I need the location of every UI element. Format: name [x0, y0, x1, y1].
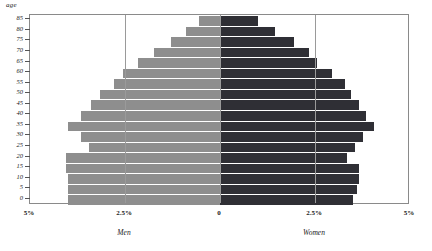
y-axis-title: age [6, 1, 17, 9]
x-tick-label: 2.5% [116, 209, 132, 217]
y-axis: 8580757065605550454035302520151050 [0, 14, 30, 204]
bar-men [171, 36, 220, 47]
population-pyramid-chart: age 8580757065605550454035302520151050 5… [0, 0, 432, 251]
bar-row [30, 173, 408, 184]
bar-women [220, 173, 359, 184]
bar-row [30, 15, 408, 26]
y-tick-label: 60 [17, 67, 24, 75]
bar-women [220, 184, 357, 195]
y-tick-mark [25, 134, 30, 135]
bar-men [100, 89, 220, 100]
bar-women [220, 121, 374, 132]
bar-row [30, 57, 408, 68]
y-tick-label: 25 [17, 141, 24, 149]
bar-row [30, 121, 408, 132]
plot-area [29, 14, 409, 204]
bar-men [138, 57, 220, 68]
y-tick-mark [25, 18, 30, 19]
y-tick-mark [25, 187, 30, 188]
y-tick-label: 20 [17, 152, 24, 160]
bar-men [186, 26, 220, 37]
bar-women [220, 15, 258, 26]
bar-men [68, 194, 220, 205]
bar-row [30, 36, 408, 47]
y-tick-mark [25, 156, 30, 157]
bar-row [30, 110, 408, 121]
bar-women [220, 110, 366, 121]
bar-men [123, 68, 220, 79]
y-tick-label: 55 [17, 78, 24, 86]
y-tick-label: 30 [17, 130, 24, 138]
bar-women [220, 36, 294, 47]
bar-men [114, 78, 220, 89]
bar-row [30, 142, 408, 153]
y-tick-mark [25, 113, 30, 114]
y-tick-mark [25, 124, 30, 125]
y-tick-label: 35 [17, 120, 24, 128]
bar-row [30, 99, 408, 110]
bar-women [220, 57, 317, 68]
bar-row [30, 152, 408, 163]
y-tick-label: 50 [17, 88, 24, 96]
y-tick-mark [25, 82, 30, 83]
y-tick-label: 85 [17, 14, 24, 22]
y-tick-mark [25, 166, 30, 167]
x-tick-label: 2.5% [306, 209, 322, 217]
y-tick-mark [25, 177, 30, 178]
bar-women [220, 78, 345, 89]
gridline [125, 15, 126, 203]
series-label-women: Women [303, 228, 325, 237]
y-tick-label: 40 [17, 109, 24, 117]
y-tick-label: 15 [17, 162, 24, 170]
gridline [220, 15, 221, 203]
bar-row [30, 163, 408, 174]
y-tick-mark [25, 71, 30, 72]
bar-women [220, 26, 275, 37]
y-tick-mark [25, 29, 30, 30]
y-tick-label: 0 [20, 194, 23, 202]
y-tick-mark [25, 39, 30, 40]
bar-men [89, 142, 220, 153]
bar-row [30, 68, 408, 79]
bar-women [220, 47, 309, 58]
y-tick-mark [25, 103, 30, 104]
x-tick-label: 5% [24, 209, 35, 217]
series-label-men: Men [117, 228, 130, 237]
y-tick-label: 75 [17, 35, 24, 43]
y-tick-mark [25, 50, 30, 51]
bar-men [66, 163, 220, 174]
bar-men [199, 15, 220, 26]
bar-row [30, 26, 408, 37]
y-tick-label: 45 [17, 99, 24, 107]
bar-women [220, 142, 355, 153]
y-tick-label: 5 [20, 183, 23, 191]
bar-women [220, 89, 351, 100]
bar-men [81, 110, 220, 121]
bar-women [220, 163, 359, 174]
x-tick-label: 5% [404, 209, 415, 217]
bar-men [68, 184, 220, 195]
bar-women [220, 194, 353, 205]
y-tick-mark [25, 145, 30, 146]
bar-row [30, 184, 408, 195]
x-tick-label: 0 [217, 209, 221, 217]
y-tick-mark [25, 61, 30, 62]
bar-men [68, 173, 220, 184]
bar-women [220, 99, 359, 110]
y-tick-label: 10 [17, 173, 24, 181]
bar-women [220, 152, 347, 163]
bar-men [91, 99, 220, 110]
bar-men [81, 131, 220, 142]
y-tick-label: 65 [17, 57, 24, 65]
y-tick-label: 80 [17, 25, 24, 33]
gridline [315, 15, 316, 203]
bar-row [30, 47, 408, 58]
bar-row [30, 78, 408, 89]
y-tick-label: 70 [17, 46, 24, 54]
y-tick-mark [25, 92, 30, 93]
bar-men [66, 152, 220, 163]
bar-row [30, 131, 408, 142]
bar-women [220, 131, 363, 142]
bar-row [30, 194, 408, 205]
bar-row [30, 89, 408, 100]
